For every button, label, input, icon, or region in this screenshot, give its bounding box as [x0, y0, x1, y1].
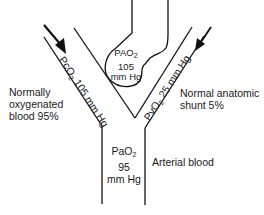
- alveolus-label: PAO2 105 mm Hg: [106, 48, 146, 83]
- left-flow-arrow-icon: [44, 25, 66, 54]
- arterial-blood-caption: Arterial blood: [152, 156, 214, 168]
- left-caption: Normally oxygenated blood 95%: [9, 86, 63, 122]
- right-caption: Normal anatomic shunt 5%: [180, 87, 259, 111]
- right-flow-arrow-icon: [195, 27, 211, 51]
- arterial-po2-label: PaO2 95 mm Hg: [104, 145, 144, 185]
